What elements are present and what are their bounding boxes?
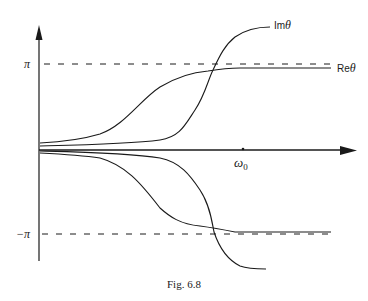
omega0-tick bbox=[242, 148, 245, 151]
minus-pi-label: −π bbox=[16, 227, 31, 241]
re-theta-upper-curve bbox=[40, 68, 331, 143]
pi-label: π bbox=[24, 57, 31, 71]
x-axis-arrow-icon bbox=[340, 146, 357, 155]
figure: π −π ω0 Imθ Reθ Fig. 6.8 bbox=[0, 0, 368, 301]
im-theta-upper-curve bbox=[40, 27, 270, 146]
im-theta-lower-curve bbox=[40, 151, 266, 269]
re-theta-label: Reθ bbox=[337, 61, 356, 75]
im-theta-label: Imθ bbox=[274, 18, 291, 32]
figure-caption: Fig. 6.8 bbox=[167, 278, 201, 290]
re-theta-lower-curve bbox=[40, 153, 331, 232]
omega0-label: ω0 bbox=[234, 155, 248, 172]
y-axis-arrow-icon bbox=[36, 25, 43, 40]
phase-plot: π −π ω0 Imθ Reθ Fig. 6.8 bbox=[0, 0, 368, 301]
omega0-subscript: 0 bbox=[243, 162, 248, 172]
